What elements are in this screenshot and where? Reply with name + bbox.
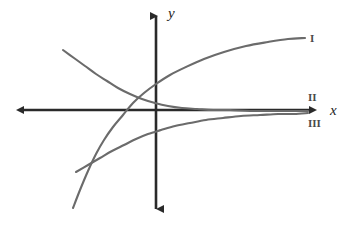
curve-label-i: I: [310, 33, 314, 44]
axes-group: [24, 16, 311, 209]
curve-label-iii: III: [308, 118, 321, 129]
curves-group: [63, 38, 308, 208]
curve-label-ii: II: [308, 92, 317, 103]
curve-ii-path: [63, 50, 308, 111]
coordinate-plane-svg: [0, 0, 356, 229]
y-axis-label: y: [168, 6, 175, 21]
curve-iii-path: [76, 113, 308, 172]
graph-figure: y x I II III: [0, 0, 356, 229]
x-axis-label: x: [330, 103, 337, 118]
